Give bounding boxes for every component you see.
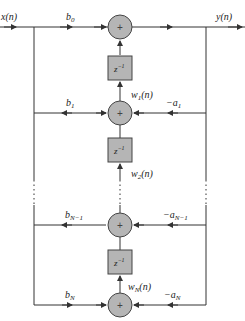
delay-block-2: z−1 — [108, 138, 132, 162]
coef-bN-1: bN−1 — [65, 209, 83, 222]
summer-n: + — [108, 293, 132, 317]
plus-symbol: + — [117, 22, 123, 33]
output-label: y(n) — [215, 11, 233, 23]
coef-a1: −a1 — [166, 97, 181, 110]
coef-b1: b1 — [66, 97, 75, 110]
iir-filter-diagram: + + + + z−1 z−1 z−1 x(n) y(n) b0 b1 −a1 … — [0, 0, 245, 321]
summer-1: + — [108, 101, 132, 125]
coef-bN: bN — [65, 289, 75, 302]
coef-b0: b0 — [66, 11, 75, 24]
signal-w2: w2(n) — [131, 168, 154, 181]
summer-n-1: + — [108, 213, 132, 237]
coef-aN: −aN — [164, 289, 181, 302]
signal-w1: w1(n) — [131, 89, 154, 102]
signal-wN: wN(n) — [128, 281, 152, 294]
plus-symbol: + — [117, 220, 123, 231]
delay-block-1: z−1 — [108, 56, 132, 80]
plus-symbol: + — [117, 108, 123, 119]
summer-0: + — [108, 15, 132, 39]
delay-block-3: z−1 — [108, 250, 132, 274]
plus-symbol: + — [117, 300, 123, 311]
input-label: x(n) — [0, 11, 18, 23]
coef-aN-1: −aN−1 — [163, 209, 188, 222]
